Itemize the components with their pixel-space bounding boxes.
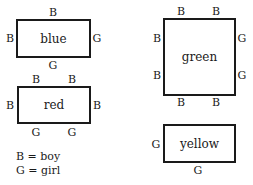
blue-table: blue [16,19,91,58]
legend-boy: B = boy [16,150,60,164]
green-right-seat-2: G [238,70,247,81]
blue-bottom-seat: G [49,60,58,71]
red-top-seat-2: B [68,74,76,85]
blue-label: blue [40,32,66,46]
green-right-seat-1: G [238,33,247,44]
green-label: green [182,50,217,64]
red-bottom-seat-2: G [68,127,77,138]
legend-girl: G = girl [16,164,60,178]
yellow-left-seat: G [152,139,161,150]
red-right-seat: B [93,100,101,111]
green-top-seat-2: B [212,6,220,17]
blue-left-seat: B [6,33,14,44]
green-bottom-seat-2: B [212,97,220,108]
green-table: green [163,18,236,96]
legend: B = boy G = girl [16,150,60,178]
red-table: red [17,86,91,124]
yellow-label: yellow [180,137,219,151]
blue-right-seat: G [93,33,102,44]
yellow-bottom-seat: G [194,165,203,176]
green-top-seat-1: B [177,6,185,17]
green-bottom-seat-1: B [177,97,185,108]
green-left-seat-1: B [153,33,161,44]
red-bottom-seat-1: G [32,127,41,138]
green-left-seat-2: B [153,70,161,81]
red-top-seat-1: B [32,74,40,85]
blue-top-seat: B [49,7,57,18]
red-left-seat: B [6,100,14,111]
red-label: red [44,98,65,112]
yellow-table: yellow [163,124,236,163]
